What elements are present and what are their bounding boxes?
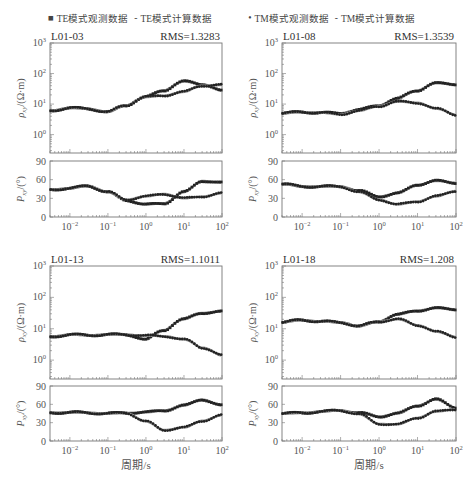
tick-label: 90 [268,156,278,167]
tick-label: 10−2 [61,444,78,456]
tick-label: 101 [177,444,190,456]
panel-l01-03: L01-03RMS=1.3283100101102103ρxy/(Ω·m)030… [15,30,229,232]
rms-label: RMS=1.208 [400,253,455,265]
rho-plot-frame [50,43,222,153]
rho-axis-label: ρxy/(Ω·m) [247,78,260,118]
phase-axis-label: Pxy/(°) [15,401,28,428]
phase-axis-label: Pxy/(°) [247,401,260,428]
tick-label: 0 [273,212,278,223]
tick-label: 103 [33,259,46,271]
tick-label: 10−1 [332,220,349,232]
tick-label: 60 [268,399,278,410]
rho-plot-frame [282,43,456,153]
tick-label: 30 [268,193,278,204]
rms-label: RMS=1.3539 [394,30,454,42]
panel-l01-13: L01-13RMS=1.1011100101102103ρxy/(Ω·m)030… [15,253,229,471]
x-axis-label: 周期/s [121,459,150,471]
tick-label: 100 [33,128,46,140]
tick-label: 30 [36,417,46,428]
tick-label: 100 [139,444,152,456]
tick-label: 101 [177,220,190,232]
tick-label: 10−2 [294,220,311,232]
tick-label: 0 [273,436,278,447]
tick-label: 103 [265,259,278,271]
tick-label: 10−2 [294,444,311,456]
station-label: L01-08 [283,30,316,42]
tick-label: 102 [33,290,46,302]
calculated-curve [51,412,221,430]
tick-label: 102 [215,444,228,456]
tick-label: 30 [268,417,278,428]
tick-label: 101 [33,97,46,109]
tick-label: 60 [36,174,46,185]
panel-l01-08: L01-08RMS=1.3539100101102103ρxy/(Ω·m)030… [247,30,463,232]
x-axis-label: 周期/s [354,459,383,471]
rms-label: RMS=1.1011 [161,253,220,265]
tick-label: 103 [33,36,46,48]
phase-plot-frame [282,161,456,217]
phase-axis-label: Pxy/(°) [247,176,260,203]
tick-label: 100 [372,444,385,456]
rho-axis-label: ρxy/(Ω·m) [247,303,260,343]
calculated-curve [283,409,455,424]
tick-label: 10−1 [99,444,116,456]
tick-label: 0 [41,212,46,223]
tick-label: 101 [265,97,278,109]
tick-label: 102 [265,67,278,79]
rho-axis-label: ρxy/(Ω·m) [15,78,28,118]
tick-label: 102 [215,220,228,232]
rho-axis-label: ρxy/(Ω·m) [15,303,28,343]
station-label: L01-03 [51,30,84,42]
figure: L01-03RMS=1.3283100101102103ρxy/(Ω·m)030… [0,0,475,483]
tick-label: 101 [411,220,424,232]
tick-label: 10−2 [61,220,78,232]
rho-plot-frame [50,266,222,379]
tick-label: 102 [33,67,46,79]
tick-label: 100 [372,220,385,232]
tick-label: 101 [411,444,424,456]
tick-label: 30 [36,193,46,204]
tick-label: 102 [265,290,278,302]
tick-label: 102 [449,220,462,232]
tick-label: 101 [33,322,46,334]
panel-l01-18: L01-18RMS=1.208100101102103ρxy/(Ω·m)0306… [247,253,463,471]
rms-label: RMS=1.3283 [160,30,220,42]
tick-label: 10−1 [332,444,349,456]
tick-label: 60 [36,399,46,410]
tick-label: 100 [139,220,152,232]
tick-label: 90 [36,156,46,167]
tick-label: 90 [36,381,46,392]
tick-label: 100 [265,353,278,365]
tick-label: 100 [33,353,46,365]
tick-label: 101 [265,322,278,334]
phase-axis-label: Pxy/(°) [15,176,28,203]
tick-label: 103 [265,36,278,48]
tick-label: 10−1 [99,220,116,232]
tick-label: 102 [449,444,462,456]
tick-label: 0 [41,436,46,447]
station-label: L01-18 [283,253,316,265]
station-label: L01-13 [51,253,84,265]
tick-label: 100 [265,128,278,140]
tick-label: 60 [268,174,278,185]
tick-label: 90 [268,381,278,392]
